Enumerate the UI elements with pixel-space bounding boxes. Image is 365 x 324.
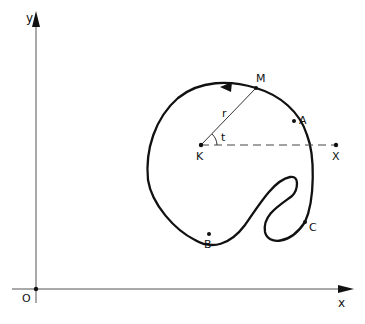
- angle-arc: [212, 134, 217, 145]
- y-axis: [32, 11, 40, 303]
- point-C: [303, 220, 307, 224]
- point-X: [334, 143, 338, 147]
- x-axis: [12, 285, 354, 293]
- closed-curve: [147, 83, 312, 245]
- y-axis-label: y: [26, 11, 33, 25]
- angle-label: t: [221, 131, 226, 144]
- label-B: B: [204, 238, 212, 251]
- x-axis-arrow-icon: [338, 285, 354, 293]
- point-M: [254, 86, 258, 90]
- radius-segment: [201, 88, 256, 145]
- y-axis-arrow-icon: [32, 11, 40, 27]
- point-B: [207, 232, 211, 236]
- label-M: M: [256, 72, 266, 85]
- origin-label: O: [22, 292, 31, 305]
- diagram-canvas: y x O K X M A C B r t: [0, 0, 365, 324]
- label-C: C: [309, 221, 317, 234]
- label-X: X: [332, 150, 340, 163]
- label-A: A: [299, 114, 307, 127]
- radius-label: r: [222, 107, 227, 120]
- point-A: [292, 119, 296, 123]
- origin-point: [34, 287, 38, 291]
- label-K: K: [196, 150, 204, 163]
- point-K: [199, 143, 203, 147]
- x-axis-label: x: [338, 296, 345, 310]
